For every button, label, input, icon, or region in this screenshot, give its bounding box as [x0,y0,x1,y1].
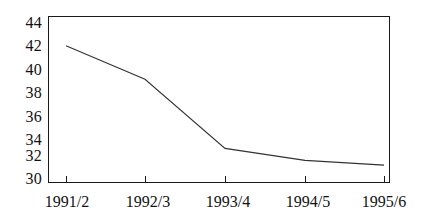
x-tick-label: 1993/4 [206,194,250,210]
x-tick-label: 1991/2 [45,194,89,210]
x-tick-label: 1992/3 [126,194,170,210]
line-chart: 44 42 40 38 36 34 32 30 1991/2 1992/3 19… [0,0,428,222]
x-tick-label: 1995/6 [362,194,406,210]
x-tick-label: 1994/5 [286,194,330,210]
x-axis-tick-labels: 1991/2 1992/3 1993/4 1994/5 1995/6 [0,0,428,222]
